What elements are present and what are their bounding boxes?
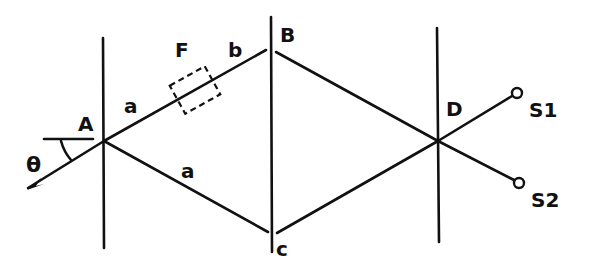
label-S1: S1 (529, 98, 557, 122)
label-theta: θ (26, 152, 41, 177)
path-A-C (104, 141, 268, 232)
detector-S1-icon (512, 88, 522, 98)
label-A: A (78, 112, 94, 136)
label-S2: S2 (531, 188, 559, 212)
label-C: c (276, 237, 288, 261)
label-a-upper: a (124, 94, 138, 118)
interferometer-diagram: A θ a F b B a c D S1 S2 (0, 0, 591, 263)
label-F: F (175, 38, 189, 62)
detector-S2-icon (514, 178, 524, 188)
label-b: b (228, 38, 242, 62)
output-S2 (438, 141, 514, 180)
mirror-BC-line (271, 17, 272, 252)
path-B-D (276, 52, 438, 141)
label-B: B (280, 23, 295, 47)
path-C-D (277, 141, 438, 233)
splitter-D-line (437, 28, 439, 242)
label-a-lower: a (181, 159, 195, 183)
label-D: D (446, 97, 463, 121)
theta-arc (61, 141, 71, 160)
